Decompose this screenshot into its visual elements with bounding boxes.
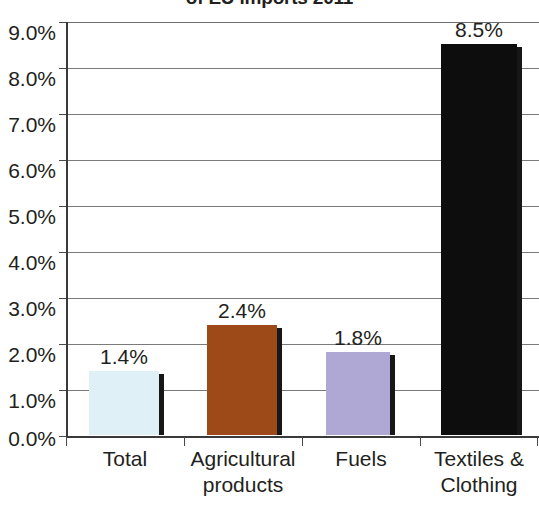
- x-axis-label-total: Total: [66, 446, 184, 472]
- bar-textiles-clothing-fill: [441, 44, 517, 435]
- y-axis-label-2: 2.0%: [0, 344, 56, 365]
- chart-title: of EU imports 2011: [0, 0, 539, 9]
- x-tick-2: [302, 437, 303, 446]
- bar-fuels-value: 1.8%: [334, 327, 382, 349]
- y-axis-label-3: 3.0%: [0, 298, 56, 319]
- bar-fuels[interactable]: 1.8%: [326, 352, 390, 435]
- bar-textiles-clothing-value: 8.5%: [455, 19, 503, 41]
- y-axis-label-8: 8.0%: [0, 68, 56, 89]
- y-axis-line: [66, 22, 68, 438]
- x-axis-label-agricultural-products: Agricultural products: [184, 446, 302, 498]
- plot-area: 1.4% 2.4% 1.8% 8.5%: [66, 22, 539, 437]
- x-tick-4: [537, 437, 538, 446]
- y-axis-label-6: 6.0%: [0, 160, 56, 181]
- bar-fuels-fill: [326, 352, 390, 435]
- bar-total-fill: [89, 371, 159, 435]
- bar-textiles-clothing[interactable]: 8.5%: [441, 44, 517, 435]
- bar-agricultural-products-shadow: [277, 328, 282, 435]
- y-axis-label-5: 5.0%: [0, 206, 56, 227]
- y-axis-label-9: 9.0%: [0, 22, 56, 43]
- bar-agricultural-products[interactable]: 2.4%: [207, 325, 277, 435]
- x-axis-label-textiles-clothing: Textiles & Clothing: [420, 446, 538, 498]
- x-tick-3: [420, 437, 421, 446]
- bar-total-shadow: [159, 374, 164, 435]
- x-tick-0: [66, 437, 67, 446]
- bar-agricultural-products-fill: [207, 325, 277, 435]
- bar-total-value: 1.4%: [100, 346, 148, 368]
- x-tick-1: [184, 437, 185, 446]
- x-axis-label-fuels: Fuels: [302, 446, 420, 472]
- y-axis-label-4: 4.0%: [0, 252, 56, 273]
- y-axis-label-7: 7.0%: [0, 114, 56, 135]
- bar-total[interactable]: 1.4%: [89, 371, 159, 435]
- bar-fuels-shadow: [390, 355, 395, 435]
- bar-textiles-clothing-shadow: [517, 47, 522, 435]
- y-axis-label-0: 0.0%: [0, 428, 56, 449]
- y-axis-label-1: 1.0%: [0, 390, 56, 411]
- bar-agricultural-products-value: 2.4%: [218, 300, 266, 322]
- bar-chart: of EU imports 2011 9.0% 8.0% 7.0% 6.0% 5…: [0, 0, 539, 508]
